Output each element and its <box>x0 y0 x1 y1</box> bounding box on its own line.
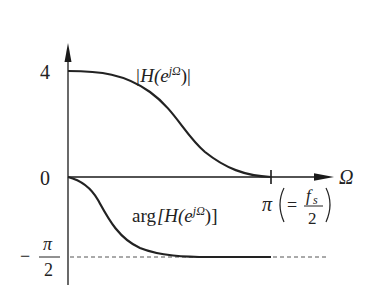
svg-text:−: − <box>20 246 30 266</box>
x-axis-arrow-icon <box>314 173 334 181</box>
svg-text:π: π <box>262 193 273 215</box>
svg-text:s: s <box>313 193 318 207</box>
svg-text:π: π <box>43 234 53 254</box>
svg-text:=: = <box>287 195 297 215</box>
x-tick-label-pi-fs-half: π = f s 2 <box>262 186 330 228</box>
y-tick-label-neg-half-pi: − π 2 <box>20 234 60 280</box>
svg-text:|H(ejΩ)|: |H(ejΩ)| <box>135 64 191 87</box>
y-axis-arrow-icon <box>65 43 72 62</box>
svg-text:arg[H(ejΩ)]: arg[H(ejΩ)] <box>132 204 217 227</box>
y-tick-label-0: 0 <box>40 167 50 189</box>
magnitude-annotation: |H(ejΩ)| <box>135 64 191 87</box>
magnitude-curve <box>68 71 271 177</box>
phase-annotation: arg[H(ejΩ)] <box>132 204 217 227</box>
svg-text:2: 2 <box>44 260 53 280</box>
x-axis-label-omega: Ω <box>339 166 353 188</box>
y-tick-label-4: 4 <box>40 61 50 83</box>
svg-text:f: f <box>306 186 313 205</box>
svg-text:2: 2 <box>308 209 317 228</box>
frequency-response-chart: 4 0 − π 2 Ω π = f s 2 |H(ejΩ)| arg[H(ejΩ… <box>0 0 378 298</box>
